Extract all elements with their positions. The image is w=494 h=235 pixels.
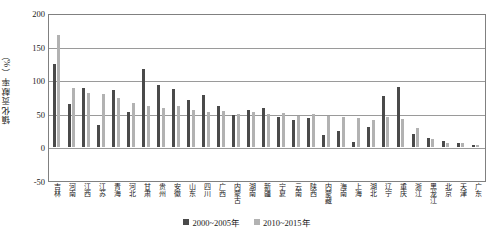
legend-item[interactable]: 2000~2005年	[183, 216, 240, 228]
bar[interactable]	[442, 141, 445, 148]
bar[interactable]	[112, 90, 115, 147]
bar[interactable]	[177, 106, 180, 147]
bar-group[interactable]	[200, 15, 215, 181]
bar[interactable]	[217, 106, 220, 148]
y-axis-title-label: 镇化贡献率（%）	[3, 50, 12, 124]
bar-group[interactable]	[334, 15, 349, 181]
bar-group[interactable]	[319, 15, 334, 181]
bar[interactable]	[262, 108, 265, 147]
bar-group[interactable]	[125, 15, 140, 181]
bar[interactable]	[117, 98, 120, 147]
bar[interactable]	[352, 142, 355, 147]
bar[interactable]	[372, 120, 375, 148]
bar[interactable]	[461, 143, 464, 147]
bar-group[interactable]	[469, 15, 484, 181]
bar[interactable]	[142, 69, 145, 147]
x-tick-label: 湖南	[244, 183, 259, 215]
bar[interactable]	[102, 94, 105, 147]
bar[interactable]	[162, 108, 165, 147]
bar-group[interactable]	[50, 15, 65, 181]
bar[interactable]	[307, 118, 310, 148]
bar[interactable]	[53, 64, 56, 147]
bar-group[interactable]	[454, 15, 469, 181]
bar[interactable]	[342, 117, 345, 148]
bar-group[interactable]	[364, 15, 379, 181]
bar[interactable]	[127, 112, 130, 147]
bar-group[interactable]	[230, 15, 245, 181]
bar[interactable]	[87, 93, 90, 147]
bar[interactable]	[312, 114, 315, 148]
bar[interactable]	[202, 95, 205, 147]
bar-group[interactable]	[80, 15, 95, 181]
bar[interactable]	[322, 135, 325, 147]
x-tick-label: 重庆	[395, 183, 410, 215]
bar[interactable]	[401, 119, 404, 148]
bar[interactable]	[232, 115, 235, 147]
bar[interactable]	[267, 114, 270, 147]
bar-group[interactable]	[409, 15, 424, 181]
bar[interactable]	[431, 139, 434, 147]
bar[interactable]	[446, 143, 449, 148]
x-tick-label-text: 海南	[339, 183, 346, 197]
bar[interactable]	[367, 127, 370, 147]
chart-container: 镇化贡献率（%） 200150100500-50 吉林河南江西江苏青海河北甘肃贵…	[0, 0, 494, 235]
bar-group[interactable]	[439, 15, 454, 181]
bar-group[interactable]	[349, 15, 364, 181]
bar[interactable]	[147, 106, 150, 147]
legend-swatch	[254, 219, 260, 225]
x-tick-label: 江苏	[94, 183, 109, 215]
bar[interactable]	[57, 35, 60, 148]
bar[interactable]	[237, 114, 240, 148]
bar[interactable]	[357, 118, 360, 148]
bar[interactable]	[412, 134, 415, 147]
bar[interactable]	[397, 87, 400, 147]
bar-group[interactable]	[260, 15, 275, 181]
bar-group[interactable]	[290, 15, 305, 181]
bar-group[interactable]	[155, 15, 170, 181]
bar[interactable]	[192, 110, 195, 147]
bar-group[interactable]	[424, 15, 439, 181]
bar[interactable]	[157, 85, 160, 147]
legend-item[interactable]: 2010~2015年	[254, 216, 311, 228]
bar[interactable]	[132, 103, 135, 147]
bar[interactable]	[416, 128, 419, 147]
bar[interactable]	[386, 117, 389, 147]
bar[interactable]	[277, 117, 280, 148]
x-tick-label-text: 浙江	[414, 183, 421, 197]
bar[interactable]	[292, 120, 295, 148]
bar[interactable]	[327, 116, 330, 148]
bar-group[interactable]	[170, 15, 185, 181]
bar[interactable]	[472, 145, 475, 148]
bar-group[interactable]	[140, 15, 155, 181]
bar-group[interactable]	[394, 15, 409, 181]
bar-group[interactable]	[379, 15, 394, 181]
bar[interactable]	[427, 138, 430, 147]
bar-group[interactable]	[65, 15, 80, 181]
y-axis-tick-labels: 200150100500-50	[14, 14, 48, 182]
bar[interactable]	[252, 112, 255, 147]
bar[interactable]	[97, 125, 100, 147]
bar-group[interactable]	[110, 15, 125, 181]
bar[interactable]	[82, 88, 85, 147]
bar-group[interactable]	[95, 15, 110, 181]
bar-group[interactable]	[215, 15, 230, 181]
bar[interactable]	[207, 112, 210, 147]
bar-group[interactable]	[304, 15, 319, 181]
bar[interactable]	[282, 113, 285, 147]
bar[interactable]	[297, 116, 300, 148]
bar-group[interactable]	[275, 15, 290, 181]
bar[interactable]	[222, 111, 225, 147]
bar-group[interactable]	[245, 15, 260, 181]
bar-group[interactable]	[185, 15, 200, 181]
bar[interactable]	[476, 145, 479, 148]
bar[interactable]	[457, 143, 460, 147]
bar[interactable]	[72, 88, 75, 148]
y-tick-label: 100	[32, 76, 45, 86]
x-tick-label: 广东	[470, 183, 485, 215]
bar[interactable]	[382, 96, 385, 147]
bar[interactable]	[247, 110, 250, 147]
bar[interactable]	[68, 104, 71, 148]
bar[interactable]	[337, 131, 340, 148]
bar[interactable]	[187, 100, 190, 148]
bar[interactable]	[172, 89, 175, 147]
